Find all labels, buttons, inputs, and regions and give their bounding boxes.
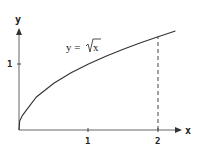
x-tick-label-1: 1 <box>85 136 90 146</box>
y-axis-arrow-icon <box>16 28 22 35</box>
x-axis-label: x <box>185 125 191 136</box>
equation-radicand: x <box>93 41 99 53</box>
equation-label: y = <box>66 41 80 53</box>
x-axis-arrow-icon <box>175 127 182 133</box>
equation-prefix: y = <box>66 41 80 53</box>
x-tick-label-2: 2 <box>155 136 160 146</box>
y-axis-label: y <box>15 14 21 25</box>
sqrt-chart: x y 1 2 1 y = x <box>0 0 203 150</box>
y-tick-label-1: 1 <box>7 59 12 69</box>
